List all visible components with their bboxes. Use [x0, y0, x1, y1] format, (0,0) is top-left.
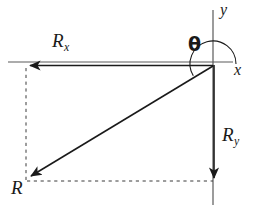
- rx-label-base: R: [52, 30, 64, 51]
- r-label: R: [11, 178, 23, 197]
- rx-label: Rx: [52, 31, 69, 54]
- ry-label-base: R: [222, 124, 234, 145]
- y-axis-label: y: [220, 2, 227, 18]
- r-vector: [31, 66, 213, 176]
- ry-label: Ry: [222, 125, 239, 148]
- x-axis-label: x: [234, 62, 241, 78]
- theta-label: θ: [188, 35, 201, 54]
- rx-label-subscript: x: [64, 41, 70, 54]
- diagram-canvas: [0, 0, 255, 214]
- vector-diagram: Rx Ry R x y θ: [0, 0, 255, 214]
- r-label-base: R: [11, 177, 23, 198]
- ry-label-subscript: y: [234, 135, 240, 148]
